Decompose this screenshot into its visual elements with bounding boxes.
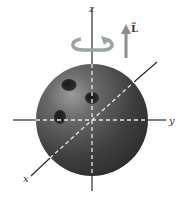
x-axis-front (31, 158, 50, 176)
x-axis-label: x (23, 173, 29, 184)
z-axis-label: z (88, 3, 95, 14)
x-axis-back (134, 62, 157, 82)
L-vector-arrow-symbol: → (131, 19, 136, 26)
y-axis-label: y (168, 115, 175, 126)
bowling-ball-diagram: z y x L → (0, 0, 185, 197)
thumb-hole (54, 110, 66, 124)
angular-momentum-arrow (121, 24, 131, 58)
finger-hole-1 (62, 79, 77, 91)
